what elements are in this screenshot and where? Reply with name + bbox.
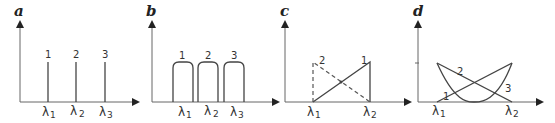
panel-b: b 1 2 3 λ1 λ2 λ3	[146, 2, 276, 120]
line-label-3: 3	[102, 49, 108, 60]
tick-lambda-2: λ2	[204, 104, 219, 119]
tick-lambda-1: λ1	[42, 105, 56, 120]
panel-c-label: c	[280, 2, 289, 20]
panel-d-label: d	[413, 2, 424, 20]
tick-lambda-2: λ2	[70, 104, 85, 119]
curve-label-1: 1	[361, 55, 367, 66]
band-2	[198, 62, 218, 102]
curve-label-1: 1	[443, 91, 449, 102]
line-label-1: 1	[45, 49, 51, 60]
tick-lambda-2: λ2	[505, 104, 519, 119]
tick-lambda-1: λ1	[307, 105, 321, 120]
spectral-diagram: a 1 2 3 λ1 λ2 λ3 b 1 2 3 λ1 λ2 λ3 c 1 2	[0, 0, 555, 123]
curve-label-3: 3	[505, 83, 511, 94]
curve-label-2: 2	[457, 66, 463, 77]
tick-lambda-2: λ2	[363, 105, 377, 120]
intersection-point	[340, 81, 343, 84]
tick-lambda-1: λ1	[178, 105, 192, 120]
panel-b-label: b	[146, 2, 157, 20]
line-label-2: 2	[73, 49, 79, 60]
panel-d: d 1 2 3 λ1 λ2	[413, 2, 540, 119]
band-label-1: 1	[179, 50, 185, 61]
band-1	[173, 62, 193, 102]
tick-lambda-3: λ3	[99, 105, 113, 120]
panel-c: c 1 2 λ1 λ2	[280, 2, 408, 120]
band-label-2: 2	[205, 50, 211, 61]
tick-lambda-1: λ1	[432, 104, 446, 119]
panel-a-label: a	[14, 2, 24, 20]
panel-a: a 1 2 3 λ1 λ2 λ3	[14, 2, 136, 120]
curve-label-2: 2	[319, 55, 325, 66]
band-label-3: 3	[231, 50, 237, 61]
band-3	[224, 62, 244, 102]
tick-lambda-3: λ3	[230, 105, 244, 120]
